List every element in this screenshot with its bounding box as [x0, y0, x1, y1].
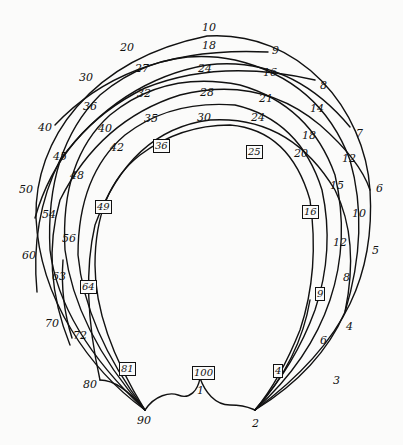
point-label: 5 — [372, 245, 379, 256]
point-label: 10 — [202, 22, 216, 33]
point-label: 21 — [259, 93, 273, 104]
point-label: 20 — [120, 42, 134, 53]
point-label: 80 — [83, 379, 97, 390]
point-label: 48 — [70, 170, 84, 181]
point-label: 28 — [200, 87, 214, 98]
boxed-square-label: 9 — [315, 287, 325, 301]
point-label: 70 — [45, 318, 59, 329]
point-label: 30 — [197, 112, 211, 123]
point-label: 16 — [263, 67, 277, 78]
point-label: 42 — [110, 142, 124, 153]
point-label: 6 — [376, 183, 383, 194]
point-label: 60 — [22, 250, 36, 261]
point-label: 7 — [356, 128, 363, 139]
arc-curve — [255, 300, 310, 410]
point-label: 90 — [137, 415, 151, 426]
point-label: 18 — [302, 130, 316, 141]
point-label: 12 — [333, 237, 347, 248]
boxed-square-label: 100 — [192, 366, 215, 380]
boxed-square-label: 49 — [95, 200, 112, 214]
point-label: 14 — [310, 103, 324, 114]
point-label: 20 — [294, 148, 308, 159]
arc-curve — [35, 71, 315, 218]
point-label: 9 — [272, 45, 279, 56]
point-label: 2 — [252, 418, 259, 429]
boxed-square-label: 64 — [80, 280, 97, 294]
boxed-square-label: 81 — [119, 362, 136, 376]
point-label: 24 — [251, 112, 265, 123]
point-label: 72 — [73, 330, 87, 341]
point-label: 63 — [52, 271, 66, 282]
point-label: 50 — [19, 184, 33, 195]
point-label: 8 — [343, 272, 350, 283]
point-label: 18 — [202, 40, 216, 51]
point-label: 15 — [330, 180, 344, 191]
point-label: 45 — [53, 151, 67, 162]
boxed-square-label: 25 — [246, 145, 263, 159]
point-label: 27 — [135, 63, 149, 74]
point-label: 40 — [98, 123, 112, 134]
point-label: 10 — [352, 208, 366, 219]
point-label: 30 — [79, 72, 93, 83]
point-label: 36 — [83, 101, 97, 112]
boxed-square-label: 16 — [302, 205, 319, 219]
boxed-square-label: 36 — [153, 139, 170, 153]
point-label: 8 — [320, 80, 327, 91]
point-label: 12 — [342, 153, 356, 164]
point-label: 40 — [38, 122, 52, 133]
arc-lattice-diagram: 1020189302724168363228211440403530241874… — [0, 0, 403, 445]
point-label: 3 — [333, 375, 340, 386]
point-label: 32 — [137, 88, 151, 99]
point-label: 6 — [320, 335, 327, 346]
point-label: 54 — [42, 209, 56, 220]
point-label: 56 — [62, 233, 76, 244]
point-label: 1 — [197, 385, 204, 396]
point-label: 35 — [144, 113, 158, 124]
boxed-square-label: 4 — [273, 364, 283, 378]
point-label: 24 — [198, 63, 212, 74]
point-label: 4 — [346, 321, 353, 332]
